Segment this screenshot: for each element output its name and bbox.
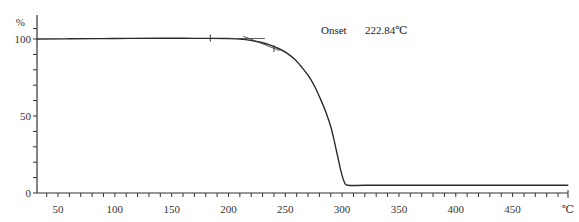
tga-curve	[37, 38, 568, 185]
y-unit-label: %	[16, 16, 25, 28]
onset-value: 222.84℃	[365, 24, 408, 36]
x-tick-label: 200	[220, 203, 237, 215]
x-tick-label: 50	[53, 203, 65, 215]
onset-label: Onset	[321, 24, 347, 36]
tga-chart: 050100%50100150200250300350400450℃ Onset…	[0, 0, 579, 222]
x-tick-label: 300	[334, 203, 351, 215]
x-tick-label: 150	[163, 203, 180, 215]
x-tick-label: 450	[504, 203, 521, 215]
x-tick-label: 400	[448, 203, 465, 215]
x-tick-label: 250	[277, 203, 294, 215]
annotations: Onset 222.84℃	[321, 24, 408, 36]
x-tick-label: 100	[107, 203, 124, 215]
y-tick-label: 0	[26, 187, 32, 199]
x-tick-label: 350	[391, 203, 408, 215]
data-series	[37, 35, 568, 186]
x-unit-label: ℃	[562, 203, 574, 215]
y-tick-label: 100	[15, 33, 32, 45]
y-tick-label: 50	[20, 110, 32, 122]
